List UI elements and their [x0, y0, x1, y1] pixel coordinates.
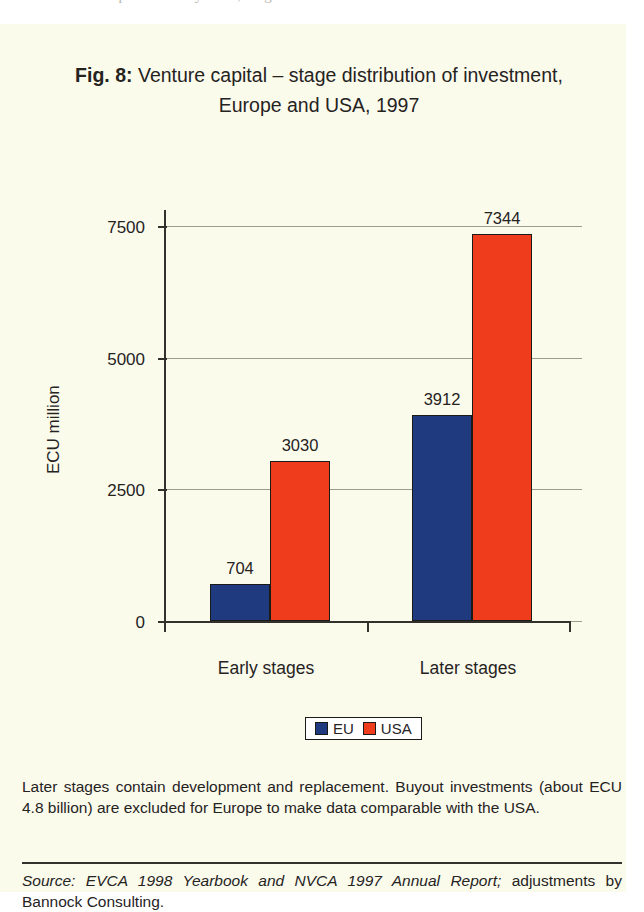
y-tick-label-2500: 2500: [107, 481, 145, 501]
figure-number: Fig. 8:: [75, 64, 132, 86]
bar-chart: ECU million 704 3030 3912 7344 0: [0, 174, 626, 754]
y-tick-2500: 2500: [158, 489, 167, 491]
category-label-early-stages: Early stages: [218, 658, 314, 679]
figure-title-text: Venture capital – stage distribution of …: [138, 64, 563, 116]
scan-top-artifact-strip: the the compared to only exist, single t: [0, 0, 644, 24]
legend-entry-eu: EU: [315, 720, 354, 737]
scan-artifact-text: the the compared to only exist, single t: [44, 0, 604, 4]
bar-eu-later: [412, 415, 472, 621]
bar-label-usa-later: 7344: [484, 209, 521, 228]
figure-panel: Fig. 8: Venture capital – stage distribu…: [0, 24, 626, 892]
legend-label-eu: EU: [333, 720, 354, 737]
y-tick-5000: 5000: [158, 358, 167, 360]
bar-eu-early: [210, 584, 270, 621]
x-tick-left: [164, 621, 166, 632]
y-tick-label-5000: 5000: [107, 350, 145, 370]
legend-swatch-usa: [363, 722, 376, 735]
bar-label-usa-early: 3030: [282, 436, 319, 455]
source-citation: Source: EVCA 1998 Yearbook and NVCA 1997…: [22, 872, 501, 889]
legend-label-usa: USA: [381, 720, 412, 737]
bar-usa-later: [472, 234, 532, 621]
chart-legend: EU USA: [305, 717, 422, 740]
bar-usa-early: [270, 461, 330, 621]
y-axis-title: ECU million: [44, 385, 64, 474]
y-axis-line: [164, 210, 166, 621]
source-divider: [22, 862, 622, 864]
legend-entry-usa: USA: [363, 720, 412, 737]
legend-swatch-eu: [315, 722, 328, 735]
x-tick-right: [569, 621, 571, 632]
x-tick-middle: [367, 621, 369, 632]
plot-area: 704 3030 3912 7344 0 2500 5000 7500: [165, 226, 570, 621]
y-tick-7500: 7500: [158, 226, 167, 228]
bar-label-eu-early: 704: [226, 559, 254, 578]
figure-footnote: Later stages contain development and rep…: [22, 776, 622, 818]
category-label-later-stages: Later stages: [420, 658, 516, 679]
y-tick-label-0: 0: [136, 613, 145, 633]
figure-title: Fig. 8: Venture capital – stage distribu…: [52, 60, 586, 120]
bar-label-eu-later: 3912: [424, 390, 461, 409]
figure-source: Source: EVCA 1998 Yearbook and NVCA 1997…: [22, 870, 622, 912]
y-tick-label-7500: 7500: [107, 218, 145, 238]
